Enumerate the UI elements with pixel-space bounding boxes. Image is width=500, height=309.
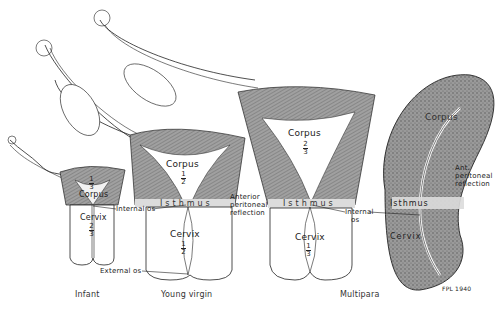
infant-corpus-fraction: 13: [89, 176, 94, 191]
infant-cervix-label: Cervix: [80, 213, 107, 222]
young-virgin-cervix-fraction: 12: [181, 241, 186, 256]
external-os-label: External os: [100, 267, 141, 275]
uterus-illustration: [0, 0, 500, 309]
internal-os-label-left: Internal os: [116, 205, 155, 213]
multipara-isthmus-label: Isthmus: [283, 199, 336, 208]
infant-uterus: [8, 136, 125, 265]
multipara-corpus-fraction: 23: [303, 141, 308, 156]
caption-young-virgin: Young virgin: [161, 290, 212, 299]
caption-infant: Infant: [75, 290, 100, 299]
artist-signature: FPL 1940: [442, 285, 471, 293]
caption-multipara: Multipara: [340, 290, 380, 299]
multipara-cervix-fraction: 13: [306, 243, 311, 258]
young-virgin-corpus-fraction: 12: [181, 171, 186, 186]
ant-peritoneal-reflection-label: Ant. peritoneal reflection: [455, 164, 493, 188]
multipara-cervix-label: Cervix: [295, 233, 325, 242]
sagittal-isthmus-label: Isthmus: [390, 199, 429, 208]
young-virgin-corpus-label: Corpus: [166, 160, 199, 169]
infant-corpus-label: Corpus: [79, 190, 108, 199]
internal-os-label-right: Internal os: [345, 208, 374, 224]
multipara-corpus-label: Corpus: [288, 129, 321, 138]
young-virgin-isthmus-label: Isthmus: [160, 199, 213, 208]
sagittal-cervix-label: Cervix: [390, 232, 422, 241]
sagittal-corpus-label: Corpus: [425, 113, 458, 122]
anterior-peritoneal-reflection-label: Anterior peritoneal reflection: [230, 193, 268, 217]
young-virgin-cervix-label: Cervix: [170, 230, 200, 239]
infant-cervix-fraction: 23: [89, 223, 94, 238]
